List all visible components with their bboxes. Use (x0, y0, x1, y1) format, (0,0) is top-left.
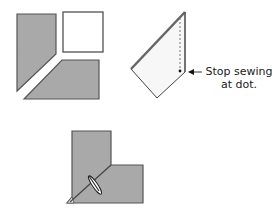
stop-sewing-annotation: Stop sewing at dot. (203, 65, 275, 91)
annotation-line-2: at dot. (203, 78, 275, 91)
stop-dot (179, 70, 182, 73)
l-shape-piece (67, 131, 143, 203)
folded-piece (131, 12, 185, 98)
annotation-line-1: Stop sewing (203, 65, 275, 78)
diagram-canvas (0, 0, 276, 214)
square-piece (63, 12, 103, 52)
